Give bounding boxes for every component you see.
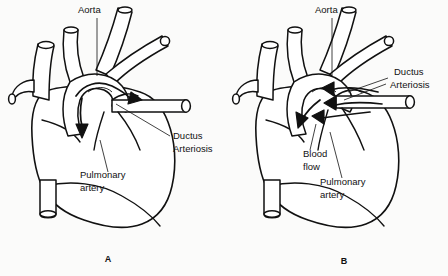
aortic-branch-brachiocephalic-opening-b — [288, 27, 302, 33]
left-subclavian-opening-a — [9, 94, 16, 104]
pulmonary-artery-tube-a — [112, 100, 186, 112]
inferior-vena-cava-opening-a — [40, 211, 56, 217]
label-ductus-arteriosis-line1-a: Ductus — [173, 130, 203, 141]
label-aorta-b: Aorta — [315, 4, 338, 15]
superior-vena-cava-opening-b — [262, 42, 278, 49]
label-pulmonary-artery-line1-a: Pulmonary — [80, 169, 126, 180]
aortic-branch-brachiocephalic-a — [63, 30, 84, 82]
pulmonary-artery-tube-b — [336, 96, 410, 108]
label-aorta-a: Aorta — [78, 4, 101, 15]
panel-a: Aorta Ductus Arteriosis Pulmonary artery… — [9, 4, 213, 264]
heart-ductus-arteriosus-figure: Aorta Ductus Arteriosis Pulmonary artery… — [0, 0, 448, 276]
aortic-branch-subclavian-opening-b — [384, 36, 393, 45]
label-pulmonary-artery-line2-b: artery — [320, 189, 345, 200]
label-blood-flow-line2-b: flow — [303, 161, 320, 172]
aortic-branch-carotid-opening-b — [342, 7, 356, 13]
label-pulmonary-artery-line1-b: Pulmonary — [320, 176, 366, 187]
panel-caption-a: A — [105, 254, 112, 264]
left-subclavian-opening-b — [233, 94, 240, 104]
label-blood-flow-line1-b: Blood — [303, 148, 327, 159]
panel-b: Aorta Ductus Arteriosis Blood flow Pulmo… — [233, 4, 430, 266]
label-pulmonary-artery-line2-a: artery — [80, 182, 105, 193]
label-ductus-arteriosis-line1-b: Ductus — [394, 66, 424, 77]
superior-vena-cava-opening-a — [38, 42, 54, 49]
panel-caption-b: B — [341, 256, 348, 266]
label-ductus-arteriosis-line2-a: Arteriosis — [173, 143, 213, 154]
aortic-branch-subclavian-opening-a — [160, 36, 169, 45]
inferior-vena-cava-opening-b — [264, 211, 280, 217]
aortic-branch-brachiocephalic-opening-a — [64, 27, 78, 33]
aortic-branch-brachiocephalic-b — [287, 30, 308, 82]
figure-canvas: Aorta Ductus Arteriosis Pulmonary artery… — [0, 0, 448, 276]
pulmonary-artery-opening-b — [406, 96, 415, 108]
label-ductus-arteriosis-line2-b: Arteriosis — [390, 79, 430, 90]
aortic-branch-carotid-opening-a — [118, 7, 132, 13]
pulmonary-artery-opening-a — [182, 100, 191, 112]
